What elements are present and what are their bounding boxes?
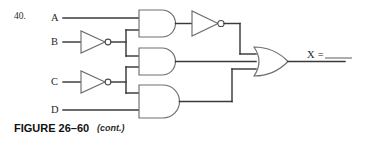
or-gate-output xyxy=(254,47,345,76)
figure-page: 40. A B C D X = FIGURE 26–60 (cont.) xyxy=(0,0,366,141)
wire-not-top-to-or xyxy=(224,24,256,55)
and-gate-top-body xyxy=(139,10,176,37)
input-wires xyxy=(63,18,139,110)
not-gate-top-triangle xyxy=(192,11,218,36)
figure-caption: FIGURE 26–60 xyxy=(14,123,89,134)
input-label-a: A xyxy=(51,13,59,24)
wire-bus-b-not xyxy=(111,30,139,56)
output-label-x: X = xyxy=(307,50,324,61)
not-gate-c-bubble xyxy=(105,79,111,85)
not-gate-top xyxy=(192,11,224,36)
or-gate-body xyxy=(254,47,288,76)
not-gate-b-triangle xyxy=(81,31,105,53)
figure-caption-continued: (cont.) xyxy=(97,124,125,133)
not-gate-b-bubble xyxy=(105,39,111,45)
not-gate-c xyxy=(81,71,111,93)
not-gate-c-triangle xyxy=(81,71,105,93)
and-gate-middle xyxy=(139,48,256,75)
not-gate-top-bubble xyxy=(218,20,224,26)
wire-bus-c-not xyxy=(111,67,139,93)
input-label-d: D xyxy=(51,105,59,116)
not-gate-b xyxy=(81,31,111,53)
problem-number: 40. xyxy=(14,12,26,22)
and-gate-top xyxy=(139,10,192,37)
and-gate-bottom xyxy=(139,69,256,118)
and-gate-bottom-body xyxy=(139,85,180,118)
input-label-c: C xyxy=(51,77,58,88)
and-gate-middle-body xyxy=(139,48,176,75)
input-label-b: B xyxy=(51,37,58,48)
